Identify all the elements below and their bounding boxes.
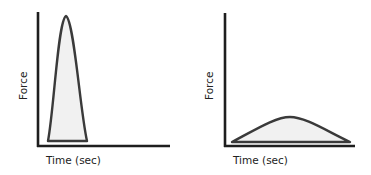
- right-chart: Time (sec) Force: [203, 13, 355, 166]
- right-y-label: Force: [203, 72, 215, 100]
- left-chart: Time (sec) Force: [17, 12, 170, 166]
- right-x-label: Time (sec): [232, 154, 288, 166]
- left-x-label: Time (sec): [45, 154, 101, 166]
- left-force-curve: [48, 16, 87, 141]
- right-force-curve: [232, 117, 350, 142]
- impulse-diagram: Time (sec) Force Time (sec) Force: [0, 0, 371, 175]
- left-y-label: Force: [17, 72, 29, 100]
